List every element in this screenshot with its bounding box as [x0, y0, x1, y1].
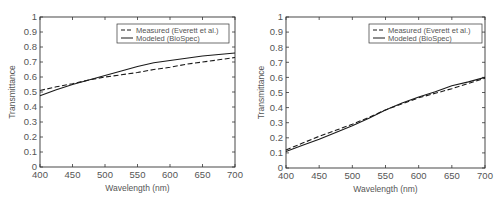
- y-tick-label: 1: [32, 11, 37, 22]
- modeled-series-line: [40, 53, 235, 96]
- y-tick-label: 0.4: [270, 102, 283, 113]
- left-chart-panel: 40045050055060065070000.10.20.30.40.50.6…: [7, 11, 243, 193]
- measured-series-line: [286, 78, 485, 150]
- y-tick-label: 0.7: [270, 57, 283, 68]
- y-tick-label: 0.9: [24, 26, 37, 37]
- x-tick-label: 650: [195, 169, 211, 180]
- x-tick-label: 500: [344, 170, 360, 181]
- y-tick-label: 0: [278, 162, 283, 173]
- x-tick-label: 550: [130, 169, 146, 180]
- y-tick-label: 0.3: [270, 117, 283, 128]
- y-tick-label: 1: [278, 11, 283, 22]
- y-tick-label: 0.5: [24, 86, 37, 97]
- y-tick-label: 0.2: [24, 131, 37, 142]
- x-tick-label: 600: [411, 170, 427, 181]
- x-axis-label: Wavelength (nm): [353, 184, 418, 194]
- y-tick-label: 0.3: [24, 116, 37, 127]
- x-tick-label: 500: [97, 169, 113, 180]
- y-tick-label: 0.5: [270, 87, 283, 98]
- legend-label: Modeled (BioSpec): [388, 34, 452, 43]
- legend: Measured (Everett et al.)Modeled (BioSpe…: [369, 24, 482, 43]
- y-axis-label: Transmittance: [256, 65, 266, 119]
- right-chart-panel: 40045050055060065070000.10.20.30.40.50.6…: [256, 11, 493, 194]
- x-tick-label: 700: [477, 170, 493, 181]
- x-axis-label: Wavelength (nm): [105, 183, 170, 193]
- legend-label: Modeled (BioSpec): [136, 34, 200, 43]
- y-tick-label: 0.2: [270, 132, 283, 143]
- x-tick-label: 700: [227, 169, 243, 180]
- x-tick-label: 450: [65, 169, 81, 180]
- y-axis-label: Transmittance: [7, 65, 17, 119]
- legend: Measured (Everett et al.)Modeled (BioSpe…: [117, 24, 229, 43]
- modeled-series-line: [286, 77, 485, 151]
- y-tick-label: 0.1: [270, 147, 283, 158]
- y-tick-label: 0.6: [24, 71, 37, 82]
- x-tick-label: 650: [444, 170, 460, 181]
- y-tick-label: 0.7: [24, 56, 37, 67]
- figure: 40045050055060065070000.10.20.30.40.50.6…: [0, 0, 502, 205]
- y-tick-label: 0.4: [24, 101, 37, 112]
- x-tick-label: 600: [162, 169, 178, 180]
- y-tick-label: 0.1: [24, 146, 37, 157]
- y-tick-label: 0.8: [270, 42, 283, 53]
- x-tick-label: 450: [311, 170, 327, 181]
- y-tick-label: 0.6: [270, 72, 283, 83]
- y-tick-label: 0.9: [270, 26, 283, 37]
- y-tick-label: 0.8: [24, 41, 37, 52]
- x-tick-label: 550: [378, 170, 394, 181]
- y-tick-label: 0: [32, 161, 37, 172]
